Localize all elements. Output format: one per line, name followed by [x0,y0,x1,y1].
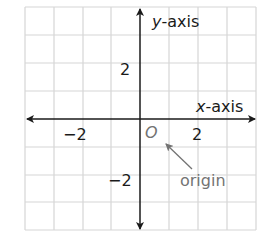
y-tick-neg2: −2 [108,171,132,190]
coordinate-plane: y-axis x-axis 2 −2 −2 2 O origin [0,0,273,249]
origin-symbol: O [145,123,158,142]
y-axis-label: y-axis [151,12,199,31]
origin-pointer-arrow-icon [166,144,192,169]
x-tick-2: 2 [192,125,202,144]
x-axis-label: x-axis [195,97,243,116]
origin-label: origin [180,171,226,190]
y-tick-2: 2 [120,60,130,79]
x-tick-neg2: −2 [63,125,87,144]
